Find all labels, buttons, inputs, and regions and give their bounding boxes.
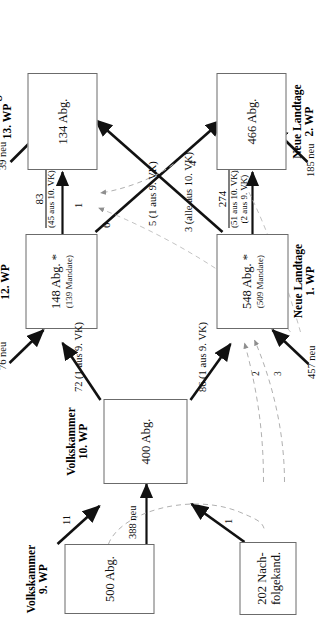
node-bundestag-12-wp-title: Bundestag 12. WP — [0, 232, 11, 332]
title-line-2: 2. WP — [302, 107, 314, 137]
fraction-denominator: (45 aus 10. VK) — [46, 170, 56, 228]
edge-label-new-to-vk10: 388 neu — [126, 505, 138, 539]
node-bundestag-12-wp-value: 148 Abg. * — [48, 254, 62, 309]
edge-label-cross-four: 4 — [186, 161, 198, 166]
node-bundestag-12-wp[interactable]: 148 Abg. * (139 Mandate) — [25, 234, 97, 329]
edge-label-nl1-to-bt13: 5 (1 aus 9. VK) — [146, 161, 158, 226]
title-line-1: Neue Landtage — [291, 244, 303, 318]
edge-label-bt12-to-nl2: 6 — [100, 223, 112, 228]
edge-label-new-to-nl1: 457 neu — [305, 345, 317, 379]
node-neue-landtage-1-wp-value: 548 Abg. * — [239, 254, 253, 309]
title-line-1: Volkskammer — [64, 407, 76, 476]
edge-nachfolger-to-nl1-b — [254, 340, 284, 482]
fraction-denominator-2: (2 aus 9. VK) — [239, 170, 249, 228]
edge-nachfolger-to-nl1-a — [244, 343, 263, 482]
edge-label-nachfolger-to-nl1-a: 2 — [250, 371, 260, 376]
edge-label-vk10-to-bt12: 72 (1 aus 9. VK) — [72, 322, 84, 392]
node-neue-landtage-2-wp-value: 466 Abg. — [244, 99, 258, 145]
edge-label-new-to-nl2: 185 neu — [304, 143, 316, 177]
title-line-2: 12. WP — [0, 264, 10, 300]
node-volkskammer-10-wp-value: 400 Abg. — [138, 419, 152, 465]
node-nachfolgekandidaten-line-1: 202 Nach- — [254, 552, 268, 604]
node-nachfolgekandidaten-line-2: folgekand. — [268, 552, 282, 605]
title-line-1: Neue Landtage — [290, 84, 302, 158]
node-volkskammer-9-wp-value: 500 Abg. — [102, 556, 116, 602]
title-line-2: 9. WP — [36, 564, 48, 594]
node-volkskammer-10-wp[interactable]: 400 Abg. — [103, 399, 187, 484]
fraction-label-nl1-to-nl2: 274 (51 aus 10. VK) (2 aus 9. VK) — [216, 170, 248, 228]
node-volkskammer-10-wp-title: Volkskammer 10. WP — [64, 394, 89, 489]
edge-label-vk9-to-vk10: 11 — [60, 515, 72, 525]
edge-label-nachfolger-to-vk10: 1 — [222, 519, 234, 524]
title-line-2: 13. WP — [0, 104, 12, 140]
title-line-1: Volkskammer — [24, 545, 36, 614]
node-neue-landtage-1-wp[interactable]: 548 Abg. * (509 Mandate) — [216, 234, 288, 329]
node-volkskammer-9-wp[interactable]: 500 Abg. — [64, 544, 154, 614]
diagram-canvas: 500 Abg. Volkskammer 9. WP 400 Abg. Volk… — [0, 0, 317, 632]
fraction-denominator: (51 aus 10. VK) — [229, 170, 239, 228]
edge-label-nachfolger-to-nl1-b: 3 — [272, 371, 282, 376]
node-neue-landtage-2-wp[interactable]: 466 Abg. — [216, 73, 286, 170]
edge-label-new-to-bt12: 76 neu — [0, 342, 8, 370]
edge-label-vk10-to-nl1: 86 (1 aus 9. VK) — [196, 322, 208, 392]
node-bundestag-13-wp[interactable]: 134 Abg. — [27, 73, 97, 170]
edge-vk9-to-vk10 — [57, 506, 99, 544]
node-neue-landtage-1-wp-mandates: (509 Mandate) — [254, 255, 264, 308]
title-line-2: 1. WP — [303, 266, 315, 296]
fraction-numerator: 274 — [216, 170, 228, 228]
node-neue-landtage-1-wp-title: Neue Landtage 1. WP — [291, 228, 316, 334]
node-bundestag-13-wp-value: 134 Abg. — [55, 99, 69, 145]
title-line-2: 10. WP — [76, 424, 88, 460]
edge-new-to-bt12 — [9, 330, 43, 363]
node-bundestag-12-wp-mandates: (139 Mandate) — [63, 255, 73, 308]
edge-label-bt12-to-bt13: 1 — [72, 203, 84, 208]
fraction-label-bt12-to-bt13: 83 (45 aus 10. VK) — [33, 170, 56, 228]
edge-new-to-nl1 — [272, 330, 308, 364]
fraction-numerator: 83 — [33, 170, 45, 228]
edge-nachfolger-to-vk10 — [191, 504, 244, 542]
node-volkskammer-9-wp-title: Volkskammer 9. WP — [24, 534, 49, 624]
node-nachfolgekandidaten[interactable]: 202 Nach- folgekand. — [239, 542, 296, 615]
edge-label-new-to-bt13: 39 neu — [0, 142, 8, 170]
